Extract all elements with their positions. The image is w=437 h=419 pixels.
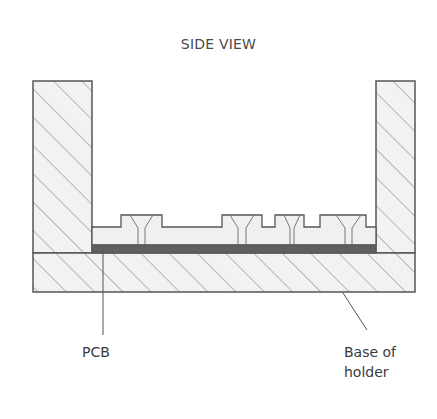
base-of-holder-label: Base of holder	[344, 342, 396, 382]
pcb-label: PCB	[82, 342, 110, 362]
base-of-holder	[33, 253, 415, 292]
base-label-line-1: Base of	[344, 342, 396, 362]
right-wall	[376, 81, 415, 253]
base-leader-line	[343, 293, 367, 330]
pcb	[92, 245, 376, 253]
base-label-line-2: holder	[344, 362, 396, 382]
component-tray	[92, 215, 376, 245]
left-wall	[33, 81, 92, 253]
